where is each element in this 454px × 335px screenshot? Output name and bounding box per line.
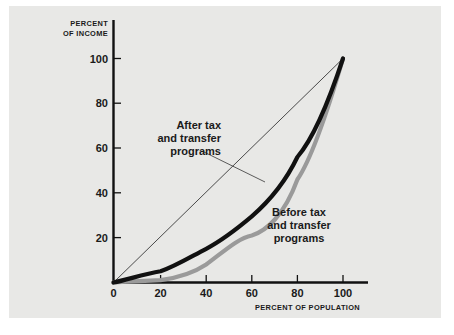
axes [112,20,368,283]
x-tick-label-60: 60 [246,287,258,299]
y-axis-tick-labels: 100 80 60 40 20 [90,53,108,244]
annotation-before-tax-line-3: programs [274,232,325,244]
lorenz-curve-chart: 100 80 60 40 20 0 20 40 60 80 100 PERCEN… [0,0,454,335]
y-axis-title-line2: OF INCOME [63,29,108,38]
annotation-before-tax-line-2: and transfer [267,219,331,231]
annotation-after-tax-line-1: After tax [176,119,222,131]
figure-root: 100 80 60 40 20 0 20 40 60 80 100 PERCEN… [0,0,454,335]
annotation-before-tax-line-1: Before tax [272,206,327,218]
annotation-after-tax-line-3: programs [170,145,221,157]
x-tick-label-80: 80 [291,287,303,299]
y-tick-label-20: 20 [96,232,108,244]
y-tick-label-80: 80 [96,97,108,109]
x-axis-title: PERCENT OF POPULATION [255,303,360,312]
annotation-after-tax-line-2: and transfer [157,132,221,144]
x-tick-label-40: 40 [200,287,212,299]
y-axis-title-line1: PERCENT [70,19,108,28]
y-tick-label-60: 60 [96,142,108,154]
annotation-before-tax-and-transfer-programs: Before tax and transfer programs [267,206,331,244]
annotation-after-tax-and-transfer-programs: After tax and transfer programs [157,119,221,157]
x-axis-tick-labels: 0 20 40 60 80 100 [110,287,352,299]
y-tick-label-40: 40 [96,187,108,199]
x-tick-label-100: 100 [334,287,352,299]
x-tick-label-0: 0 [110,287,116,299]
x-tick-label-20: 20 [154,287,166,299]
y-tick-label-100: 100 [90,53,108,65]
